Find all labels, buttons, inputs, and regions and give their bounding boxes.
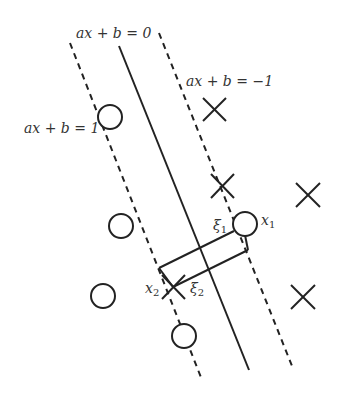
x1-label: x1 [261, 212, 275, 230]
boundary-label: ax + b = 0 [76, 25, 151, 41]
cross-point-x2 [162, 275, 185, 299]
circle-point [172, 324, 196, 348]
cross-point [203, 98, 226, 121]
cross-point [296, 183, 320, 207]
circle-point [98, 105, 122, 129]
circle-point [109, 214, 133, 238]
cross-point [211, 174, 234, 198]
x2-label: x2 [145, 280, 159, 298]
margin-negative-label: ax + b = −1 [186, 73, 273, 89]
circle-point [91, 284, 115, 308]
cross-point [291, 285, 315, 309]
xi1-label: ξ1 [213, 217, 227, 235]
svm-diagram: ax + b = 0 ax + b = −1 ax + b = 1 x1 ξ1 … [0, 0, 338, 398]
xi2-label: ξ2 [190, 280, 204, 298]
margin-positive-label: ax + b = 1 [24, 120, 99, 136]
circle-point-x1 [233, 212, 257, 236]
